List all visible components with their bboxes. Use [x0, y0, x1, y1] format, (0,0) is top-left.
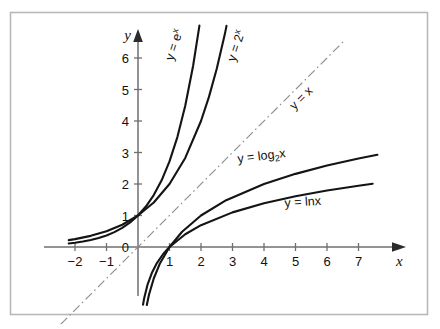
x-tick-label-5: 5 — [292, 254, 299, 269]
y-tick-label-2: 2 — [122, 177, 129, 192]
x-tick-label-4: 4 — [260, 254, 267, 269]
y-axis-label: y — [122, 27, 131, 43]
function-graph-chart: −2 −1 1 2 3 4 5 6 7 0 1 2 3 4 5 6 — [0, 0, 440, 329]
x-tick-label-7: 7 — [355, 254, 362, 269]
y-tick-label-6: 6 — [122, 51, 129, 66]
x-axis-label: x — [395, 253, 403, 269]
x-tick-label-1: 1 — [166, 254, 173, 269]
y-tick-label-3: 3 — [122, 146, 129, 161]
figure-container: −2 −1 1 2 3 4 5 6 7 0 1 2 3 4 5 6 — [0, 0, 440, 329]
y-tick-label-5: 5 — [122, 83, 129, 98]
x-tick-label-3: 3 — [229, 254, 236, 269]
curve-label-ln-x-group: y = lnx — [284, 194, 322, 211]
x-tick-label--2: −2 — [68, 254, 83, 269]
curve-label-ln-x: y = lnx — [284, 194, 322, 211]
y-tick-label-0: 0 — [122, 240, 129, 255]
x-tick-label-6: 6 — [323, 254, 330, 269]
x-tick-label-2: 2 — [197, 254, 204, 269]
x-tick-label--1: −1 — [99, 254, 114, 269]
y-tick-label-4: 4 — [122, 114, 129, 129]
